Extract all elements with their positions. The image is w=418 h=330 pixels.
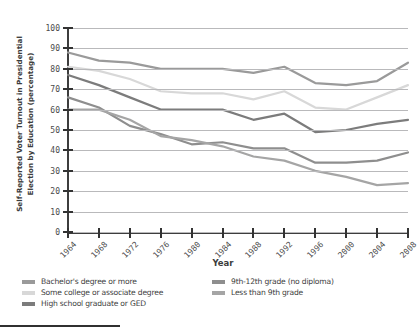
x-axis-title: Year — [0, 258, 416, 268]
x-axis-tick — [191, 228, 193, 238]
x-axis-tick-label: 2004 — [367, 240, 387, 260]
grid-line — [68, 110, 408, 111]
series-line — [68, 110, 408, 185]
y-axis-tick-label: 0 — [55, 228, 60, 237]
legend-item[interactable]: Some college or associate degree — [22, 288, 163, 297]
x-axis-tick — [160, 228, 162, 238]
bottom-rule — [0, 325, 120, 327]
y-axis-tick — [63, 88, 73, 90]
legend-item-label: Less than 9th grade — [231, 288, 303, 297]
y-axis-title: Self-Reported Voter Turnout in President… — [14, 19, 36, 229]
y-axis-tick — [63, 190, 73, 192]
y-axis-tick-label: 90 — [50, 44, 60, 53]
x-axis-tick — [283, 228, 285, 238]
x-axis-tick — [67, 228, 69, 238]
series-line — [68, 67, 408, 110]
y-axis-tick — [63, 109, 73, 111]
y-axis-tick — [63, 129, 73, 131]
x-axis-tick-label: 1968 — [89, 240, 109, 260]
x-axis-tick-label: 1980 — [182, 240, 202, 260]
y-axis-title-wrapper: Self-Reported Voter Turnout in President… — [8, 18, 42, 230]
x-axis-tick-label: 1984 — [213, 240, 233, 260]
x-axis-tick — [252, 228, 254, 238]
legend-swatch-icon — [212, 291, 225, 295]
legend-item[interactable]: Less than 9th grade — [212, 288, 303, 297]
x-axis-tick — [129, 228, 131, 238]
x-axis-tick — [98, 228, 100, 238]
cutoff-title-strip — [0, 0, 416, 10]
y-axis-tick — [63, 47, 73, 49]
x-axis-tick-label: 1972 — [120, 240, 140, 260]
y-axis-tick-label: 60 — [50, 105, 60, 114]
x-axis-tick — [222, 228, 224, 238]
x-axis-tick — [376, 228, 378, 238]
legend-item[interactable]: High school graduate or GED — [22, 299, 146, 308]
grid-line — [68, 130, 408, 131]
y-axis-tick-label: 80 — [50, 64, 60, 73]
x-axis-tick-label: 1988 — [244, 240, 264, 260]
x-axis-tick — [314, 228, 316, 238]
legend-item-label: High school graduate or GED — [41, 299, 146, 308]
legend-swatch-icon — [22, 291, 35, 295]
legend-swatch-icon — [22, 280, 35, 284]
grid-line — [68, 89, 408, 90]
y-axis-tick-label: 100 — [46, 24, 60, 33]
legend-swatch-icon — [22, 302, 35, 306]
x-axis-tick-label: 1992 — [275, 240, 295, 260]
y-axis-tick — [63, 149, 73, 151]
y-axis-tick-label: 30 — [50, 166, 60, 175]
plot-area: 0102030405060708090100196419681972197619… — [68, 28, 408, 232]
legend-item-label: Bachelor's degree or more — [41, 277, 137, 286]
x-axis-tick — [345, 228, 347, 238]
x-axis-tick-label: 1964 — [58, 240, 78, 260]
grid-line — [68, 150, 408, 151]
x-axis-tick-label: 2008 — [398, 240, 418, 260]
grid-line — [68, 48, 408, 49]
legend-item[interactable]: 9th-12th grade (no diploma) — [212, 277, 334, 286]
y-axis-tick — [63, 68, 73, 70]
x-axis-tick — [407, 228, 409, 238]
legend-item-label: Some college or associate degree — [41, 288, 163, 297]
y-axis-tick — [63, 27, 73, 29]
grid-line — [68, 191, 408, 192]
chart-legend: Bachelor's degree or moreSome college or… — [22, 277, 402, 319]
y-axis-tick-label: 20 — [50, 187, 60, 196]
y-axis-tick-label: 40 — [50, 146, 60, 155]
grid-line — [68, 232, 408, 233]
grid-line — [68, 171, 408, 172]
grid-line — [68, 28, 408, 29]
y-axis-tick-label: 10 — [50, 207, 60, 216]
legend-item[interactable]: Bachelor's degree or more — [22, 277, 137, 286]
legend-swatch-icon — [212, 280, 225, 284]
legend-item-label: 9th-12th grade (no diploma) — [231, 277, 334, 286]
x-axis-tick-label: 1996 — [306, 240, 326, 260]
y-axis-tick — [63, 211, 73, 213]
x-axis-tick-label: 1976 — [151, 240, 171, 260]
y-axis-tick — [63, 170, 73, 172]
x-axis-tick-label: 2000 — [337, 240, 357, 260]
y-axis-tick-label: 50 — [50, 126, 60, 135]
grid-line — [68, 69, 408, 70]
y-axis-tick-label: 70 — [50, 85, 60, 94]
grid-line — [68, 212, 408, 213]
